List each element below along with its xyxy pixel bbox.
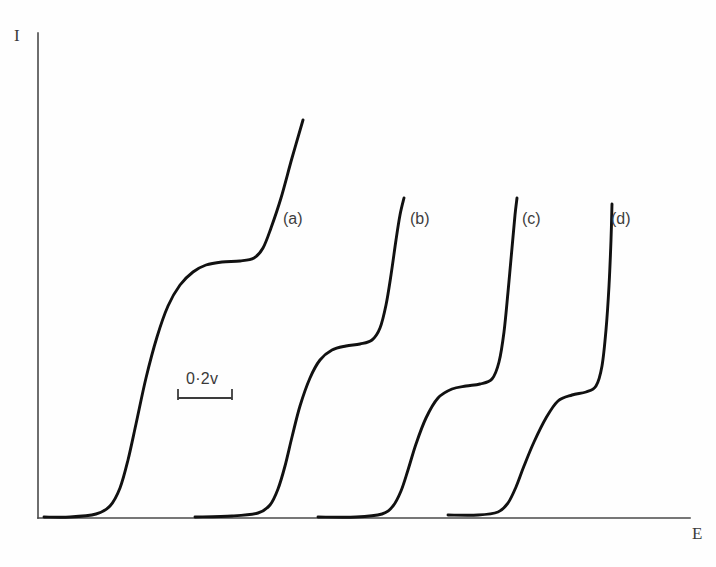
polarogram-figure: I E 0·2v (a) (b) (c) (d)	[0, 0, 716, 567]
axes-group	[38, 33, 690, 518]
x-axis-label: E	[692, 524, 703, 544]
scale-bar-label: 0·2v	[186, 370, 218, 388]
curve-b	[195, 198, 404, 517]
curve-label-a: (a)	[283, 210, 303, 228]
curve-c	[318, 198, 517, 517]
curve-label-d: (d)	[611, 210, 631, 228]
curve-d	[448, 204, 612, 515]
plot-canvas	[0, 0, 716, 567]
curve-label-b: (b)	[410, 210, 430, 228]
curves-group	[44, 120, 612, 517]
curve-a	[44, 120, 303, 517]
curve-label-c: (c)	[522, 210, 541, 228]
scale-bar-group	[178, 389, 232, 400]
y-axis-label: I	[14, 26, 20, 46]
